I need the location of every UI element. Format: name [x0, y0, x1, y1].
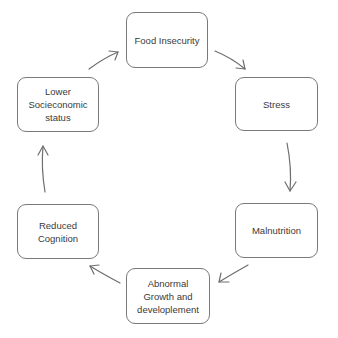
node-malnutrition: Malnutrition	[235, 203, 318, 258]
node-label: Lower Socieconomic status	[28, 85, 87, 124]
node-label: Malnutrition	[252, 224, 301, 237]
node-lower-socioeconomic-status: Lower Socieconomic status	[17, 77, 99, 132]
arrow-stress-to-malnutrition	[285, 143, 296, 191]
arrow-abnormal-growth-to-reduced-cognition	[90, 265, 120, 283]
cycle-diagram: Food Insecurity Stress Malnutrition Abno…	[0, 0, 338, 338]
arrow-lower-ses-to-food	[89, 51, 118, 69]
node-food-insecurity: Food Insecurity	[126, 12, 208, 68]
arrow-malnutrition-to-abnormal-growth	[219, 265, 248, 282]
arrow-food-to-stress	[215, 51, 245, 69]
node-stress: Stress	[235, 77, 318, 131]
node-label: Stress	[263, 98, 290, 111]
node-abnormal-growth: Abnormal Growth and developlement	[126, 268, 210, 324]
node-label: Abnormal Growth and developlement	[137, 277, 199, 316]
node-label: Reduced Cognition	[38, 219, 78, 245]
arrow-reduced-cognition-to-lower-ses	[38, 146, 48, 192]
node-reduced-cognition: Reduced Cognition	[17, 204, 99, 259]
node-label: Food Insecurity	[135, 34, 200, 47]
